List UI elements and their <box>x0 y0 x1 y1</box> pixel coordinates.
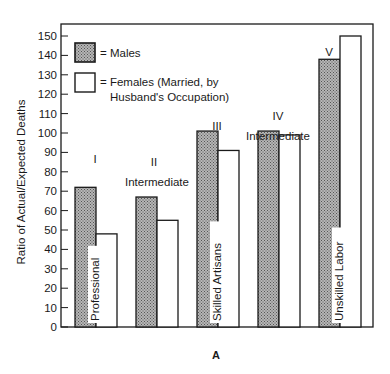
legend: = Males= Females (Married, byHusband's O… <box>75 43 229 103</box>
y-tick-label: 0 <box>51 321 57 333</box>
category-label: III <box>212 120 222 132</box>
y-tick-label: 30 <box>44 263 57 275</box>
bar-males-II <box>136 197 157 327</box>
legend-label-females-line2: Husband's Occupation) <box>110 91 229 103</box>
bar-females-II <box>157 220 178 327</box>
bar-chart: 0102030405060708090100110120130140150 IP… <box>0 0 390 374</box>
svg-text:Professional: Professional <box>89 258 101 321</box>
y-tick-label: 100 <box>38 127 57 139</box>
legend-label-males: = Males <box>100 47 141 59</box>
y-tick-label: 110 <box>39 108 57 120</box>
y-tick-label: 60 <box>44 205 57 217</box>
category-label: II <box>151 156 157 168</box>
bar-males-IV <box>258 131 279 327</box>
bar-inner-label: Unskilled Labor <box>332 228 346 324</box>
y-tick-label: 40 <box>44 243 57 255</box>
legend-swatch-females <box>75 73 95 92</box>
y-tick-label: 10 <box>44 302 57 314</box>
y-tick-label: 120 <box>38 88 57 100</box>
y-tick-label: 50 <box>44 224 57 236</box>
bar-females-IV <box>279 135 300 327</box>
y-tick-label: 20 <box>44 282 57 294</box>
bar-inner-label: Skilled Artisans <box>210 221 224 323</box>
category-label: IV <box>273 110 284 122</box>
category-label: V <box>325 46 333 58</box>
category-sublabel: Intermediate <box>125 176 189 188</box>
y-tick-label: 140 <box>38 49 57 61</box>
bar-inner-label: Professional <box>88 246 102 323</box>
category-label: I <box>93 153 96 165</box>
svg-text:Unskilled Labor: Unskilled Labor <box>333 242 345 321</box>
category-sublabel: Intermediate <box>246 130 310 142</box>
y-axis-label: Ratio of Actual/Expected Deaths <box>15 99 27 264</box>
legend-swatch-males <box>75 43 95 62</box>
y-tick-label: 70 <box>44 185 57 197</box>
y-tick-label: 130 <box>38 69 57 81</box>
y-tick-label: 80 <box>44 166 57 178</box>
y-axis: 0102030405060708090100110120130140150 <box>38 30 68 333</box>
panel-label: A <box>212 349 220 361</box>
svg-text:Skilled Artisans: Skilled Artisans <box>211 243 223 321</box>
y-tick-label: 90 <box>44 146 57 158</box>
y-tick-label: 150 <box>38 30 57 42</box>
legend-label-females-line1: = Females (Married, by <box>100 76 219 88</box>
